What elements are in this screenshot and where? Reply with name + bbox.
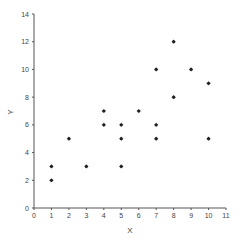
y-tick-label: 14	[21, 11, 29, 18]
data-point-marker	[154, 137, 158, 141]
data-point-marker	[119, 123, 123, 127]
data-point-marker	[189, 67, 193, 71]
x-tick-label: 9	[189, 212, 193, 219]
data-point-marker	[84, 164, 88, 168]
y-tick-label: 2	[25, 177, 29, 184]
y-axis: 02468101214	[21, 11, 34, 212]
y-tick-label: 0	[25, 205, 29, 212]
y-tick-label: 12	[21, 38, 29, 45]
data-point-marker	[102, 109, 106, 113]
data-point-marker	[119, 137, 123, 141]
x-tick-label: 7	[154, 212, 158, 219]
x-tick-label: 4	[102, 212, 106, 219]
data-point-marker	[154, 123, 158, 127]
data-point-marker	[172, 95, 176, 99]
x-tick-label: 1	[50, 212, 54, 219]
y-tick-label: 10	[21, 66, 29, 73]
data-point-marker	[49, 164, 53, 168]
data-point-marker	[137, 109, 141, 113]
y-tick-label: 4	[25, 149, 29, 156]
x-tick-label: 6	[137, 212, 141, 219]
x-tick-label: 3	[84, 212, 88, 219]
data-point-marker	[207, 137, 211, 141]
x-tick-label: 0	[32, 212, 36, 219]
data-points	[49, 40, 210, 183]
data-point-marker	[49, 178, 53, 182]
x-tick-label: 10	[205, 212, 213, 219]
y-tick-label: 8	[25, 94, 29, 101]
x-tick-label: 5	[119, 212, 123, 219]
x-axis: 01234567891011	[32, 208, 230, 219]
y-axis-label: Y	[6, 109, 15, 115]
x-axis-label: X	[127, 226, 133, 235]
y-tick-label: 6	[25, 121, 29, 128]
data-point-marker	[67, 137, 71, 141]
scatter-chart: 02468101214 01234567891011 X Y	[0, 0, 239, 239]
x-tick-label: 8	[172, 212, 176, 219]
x-tick-label: 11	[222, 212, 229, 219]
data-point-marker	[102, 123, 106, 127]
x-tick-label: 2	[67, 212, 71, 219]
data-point-marker	[172, 40, 176, 44]
data-point-marker	[207, 81, 211, 85]
data-point-marker	[119, 164, 123, 168]
data-point-marker	[154, 67, 158, 71]
